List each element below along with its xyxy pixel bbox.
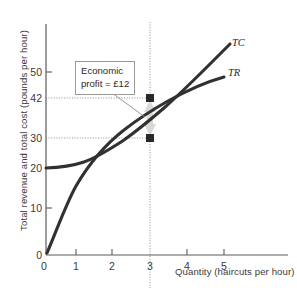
economic-profit-annotation: Economic profit = £12 xyxy=(75,61,135,95)
x-tick-label-2: 2 xyxy=(109,260,115,272)
marker-tc-point xyxy=(147,135,154,142)
curve-label-tc: TC xyxy=(232,37,246,48)
x-tick-label-1: 1 xyxy=(73,260,79,272)
y-axis-title: Total revenue and total cost (pounds per… xyxy=(18,16,29,246)
y-tick-label-50: 50 xyxy=(30,66,42,78)
total-cost-curve xyxy=(46,44,230,168)
y-tick-label-42: 42 xyxy=(30,92,42,104)
y-tick-label-30: 30 xyxy=(30,132,42,144)
marker-tr-point xyxy=(147,95,154,102)
chart-plot-area: 50 42 30 20 10 0 0 1 2 3 4 5 TC TR xyxy=(0,0,297,290)
annotation-line-2: profit = £12 xyxy=(81,78,129,91)
y-tick-label-20: 20 xyxy=(30,162,42,174)
annotation-line-1: Economic xyxy=(81,65,129,78)
y-tick-label-10: 10 xyxy=(30,202,42,214)
curve-label-tr: TR xyxy=(228,67,241,78)
x-axis-title: Quantity (haircuts per hour) xyxy=(175,266,295,277)
economic-profit-chart: 50 42 30 20 10 0 0 1 2 3 4 5 TC TR Econo… xyxy=(0,0,297,290)
annotation-leader-line xyxy=(112,93,145,117)
x-tick-label-0: 0 xyxy=(41,260,47,272)
x-tick-label-3: 3 xyxy=(147,260,153,272)
